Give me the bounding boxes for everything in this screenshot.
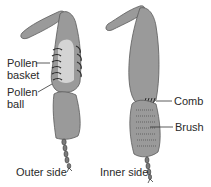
pollen-ball-label: Pollen ball — [7, 86, 38, 110]
inner-leg — [106, 6, 173, 183]
comb-label: Comb — [174, 95, 203, 107]
pollen-basket-label: Pollen basket — [7, 57, 39, 81]
inner-side-caption: Inner side — [100, 166, 148, 178]
pollen-ball-label-line2: ball — [7, 98, 38, 110]
brush-label: Brush — [175, 121, 204, 133]
pollen-basket-label-line2: basket — [7, 69, 39, 81]
pollen-basket-label-line1: Pollen — [7, 57, 39, 69]
pollen-ball-label-line1: Pollen — [7, 86, 38, 98]
outer-side-caption: Outer side — [16, 166, 67, 178]
